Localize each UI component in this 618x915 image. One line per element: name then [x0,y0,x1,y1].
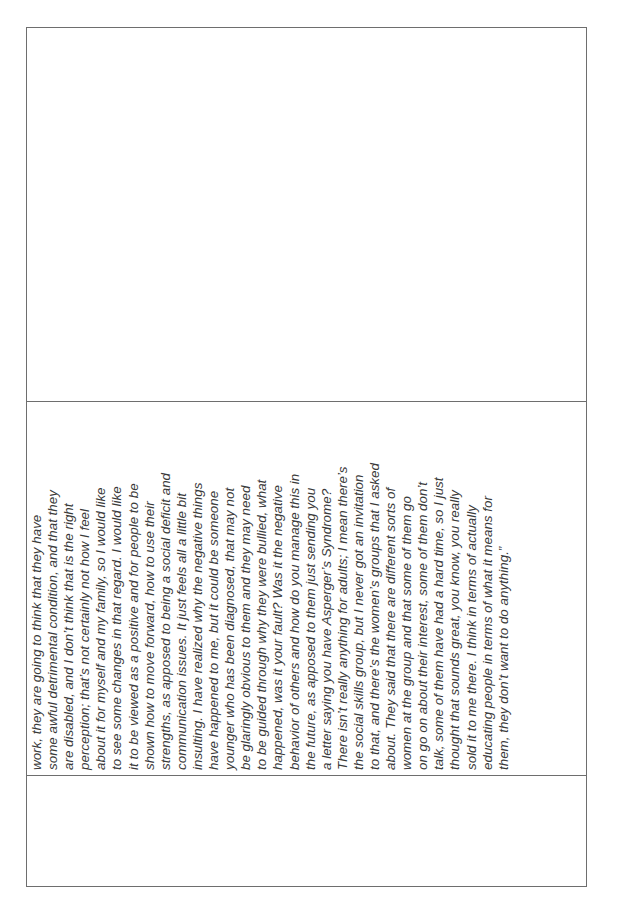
quote-line: on go on about their interest, some of t… [415,406,431,770]
quote-line: younger who has been diagnosed, that may… [222,406,238,770]
quote-line: strengths, as apposed to being a social … [158,406,174,770]
quote-cell: work, they are going to think that they … [27,402,587,775]
quote-line: behavior of others and how do you manage… [287,406,303,770]
quote-line: There isn’t really anything for adults; … [335,406,351,770]
quote-line: shown how to move forward, how to use th… [142,406,158,770]
quote-line: insulting. I have realized why the negat… [190,406,206,770]
quote-line: are disabled, and I don’t think that is … [61,406,77,770]
quote-line: the future, as apposed to them just send… [303,406,319,770]
quote-line: to be guided through why they were bulli… [254,406,270,770]
row-divider-bottom [26,775,587,776]
quote-line: about it for myself and my family, so I … [93,406,109,770]
quote-line: about. They said that there are differen… [383,406,399,770]
quote-line: women at the group and that some of them… [399,406,415,770]
quote-line: educating people in terms of what it mea… [480,406,496,770]
quote-line: some awful detrimental condition, and th… [45,406,61,770]
quote-line: them, they don’t want to do anything.” [496,406,512,770]
document-page: work, they are going to think that they … [0,0,618,915]
quote-line: sold it to me there. I think in terms of… [464,406,480,770]
quote-line: to see some changes in that regard. I wo… [109,406,125,770]
quote-line: a letter saying you have Asperger’s Synd… [319,406,335,770]
quote-line: have happened to me, but it could be som… [206,406,222,770]
quote-line: thought that sounds great, you know, you… [447,406,463,770]
quote-line: perception; that’s not certainly not how… [77,406,93,770]
quote-line: communication issues. It just feels all … [174,406,190,770]
rotated-quote-text: work, they are going to think that they … [27,402,587,775]
quote-line: work, they are going to think that they … [29,406,45,770]
quote-line: to that, and there’s the women’s groups … [367,406,383,770]
quote-line: the social skills group, but I never got… [351,406,367,770]
empty-bottom-cell [27,777,586,887]
empty-top-cell [27,28,586,400]
quote-line: talk, some of them have had a hard time,… [431,406,447,770]
quote-line: happened, was it your fault? Was it the … [270,406,286,770]
quote-line: be glaringly obvious to them and they ma… [238,406,254,770]
quote-line: it to be viewed as a positive and for pe… [126,406,142,770]
